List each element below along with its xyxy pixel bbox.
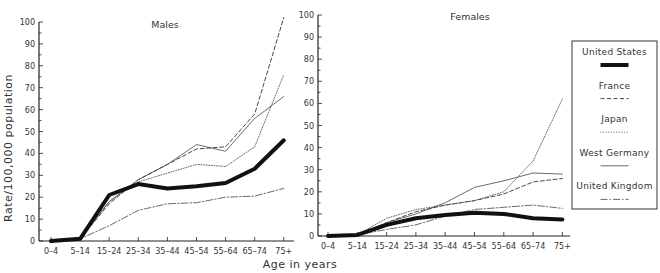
x-tick-label: 15–24	[97, 247, 121, 256]
series-line-france	[328, 179, 562, 237]
series-line-west-germany	[328, 173, 562, 236]
y-tick-label: 70	[304, 77, 314, 86]
y-tick-label: 50	[25, 128, 35, 137]
x-tick-label: 25–34	[404, 242, 428, 251]
x-axis-title: Age in years	[263, 258, 338, 271]
legend-label: West Germany	[580, 148, 650, 158]
legend-label: United Kingdom	[576, 181, 652, 191]
y-tick-label: 90	[304, 33, 314, 42]
y-tick-label: 10	[304, 210, 314, 219]
y-tick-label: 80	[304, 55, 314, 64]
y-tick-label: 40	[25, 149, 35, 158]
y-tick-label: 90	[25, 40, 35, 49]
x-tick-label: 75+	[275, 247, 292, 256]
y-tick-label: 20	[304, 188, 314, 197]
x-tick-label: 5–14	[348, 242, 367, 251]
x-tick-label: 75+	[554, 242, 571, 251]
females-panel: Females01020304050607080901000–45–1415–2…	[299, 11, 571, 251]
y-axis-title: Rate/100,000 population	[2, 74, 15, 222]
x-tick-label: 15–24	[374, 242, 398, 251]
x-tick-label: 35–44	[433, 242, 457, 251]
y-tick-label: 0	[30, 237, 35, 246]
y-tick-label: 30	[304, 166, 314, 175]
x-tick-label: 45–54	[462, 242, 486, 251]
series-line-west-germany	[51, 97, 284, 242]
panel-title: Females	[450, 11, 489, 22]
series-line-united-states	[51, 140, 284, 241]
y-tick-label: 20	[25, 193, 35, 202]
y-tick-label: 100	[20, 18, 35, 27]
y-tick-label: 40	[304, 144, 314, 153]
legend: United StatesFranceJapanWest GermanyUnit…	[572, 41, 657, 209]
y-tick-label: 50	[304, 122, 314, 131]
x-tick-label: 65–74	[243, 247, 267, 256]
y-tick-label: 60	[25, 106, 35, 115]
series-line-japan	[51, 75, 284, 241]
legend-label: United States	[582, 47, 647, 57]
x-tick-label: 0–4	[321, 242, 335, 251]
x-tick-label: 45–54	[184, 247, 208, 256]
x-tick-label: 55–64	[213, 247, 237, 256]
males-panel: Males01020304050607080901000–45–1415–242…	[20, 18, 294, 256]
panel-title: Males	[151, 19, 179, 30]
y-tick-label: 0	[309, 232, 314, 241]
x-tick-label: 25–34	[126, 247, 150, 256]
y-tick-label: 80	[25, 62, 35, 71]
x-tick-label: 5–14	[70, 247, 89, 256]
x-tick-label: 35–44	[155, 247, 179, 256]
series-line-france	[51, 18, 284, 241]
legend-label: France	[599, 81, 631, 91]
x-tick-label: 65–74	[521, 242, 545, 251]
legend-label: Japan	[600, 114, 628, 124]
y-tick-label: 100	[299, 11, 314, 20]
x-tick-label: 55–64	[492, 242, 516, 251]
chart-canvas: Males01020304050607080901000–45–1415–242…	[0, 0, 660, 273]
y-tick-label: 60	[304, 99, 314, 108]
y-tick-label: 30	[25, 171, 35, 180]
y-tick-label: 10	[25, 215, 35, 224]
y-tick-label: 70	[25, 84, 35, 93]
x-tick-label: 0–4	[44, 247, 58, 256]
